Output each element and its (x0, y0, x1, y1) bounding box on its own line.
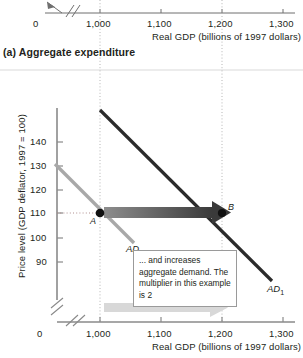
x-axis-break (66, 315, 85, 326)
y-tick-140: 140 (30, 136, 46, 147)
curve-label-ad1-subscript: 1 (280, 289, 284, 296)
annotation-callout: ... and increases aggregate demand. The … (133, 250, 237, 307)
figure-aggregate-expenditure: 0 1,000 1,100 1,200 1,300 Real GDP (bill… (0, 0, 303, 358)
curve-label-ad1: AD1 (267, 283, 284, 296)
top-axis-tick-1000: 1,000 (86, 18, 111, 29)
y-tick-110: 110 (30, 207, 46, 218)
x-tick-1000: 1,000 (86, 328, 111, 339)
top-axis-origin-label: 0 (33, 18, 38, 29)
x-tick-1100: 1,100 (147, 328, 172, 339)
point-a-marker (96, 209, 105, 218)
y-axis-title: Price level (GDP deflator, 1997 = 100) (16, 114, 27, 278)
panel-caption: (a) Aggregate expenditure (3, 46, 135, 58)
curve-ad0 (55, 164, 134, 243)
y-tick-120: 120 (30, 184, 46, 195)
y-tick-90: 90 (36, 256, 47, 267)
top-axis-title: Real GDP (billions of 1997 dollars) (152, 31, 301, 42)
x-tick-1300: 1,300 (269, 328, 294, 339)
curve-label-ad1-text: AD (267, 283, 280, 294)
top-axis-group (45, 2, 295, 17)
top-axis-tick-1300: 1,300 (269, 18, 294, 29)
y-axis-break (51, 298, 63, 315)
point-b-label: B (228, 202, 234, 212)
x-tick-1200: 1,200 (208, 328, 233, 339)
y-tick-130: 130 (30, 160, 46, 171)
top-axis-tick-1100: 1,100 (147, 18, 172, 29)
top-axis-tick-1200: 1,200 (208, 18, 233, 29)
x-axis-title: Real GDP (billions of 1997 dollars) (152, 341, 301, 352)
point-b-marker (218, 209, 226, 217)
point-a-label: A (90, 216, 96, 226)
x-axis-origin-label: 0 (37, 328, 42, 339)
y-tick-100: 100 (30, 232, 46, 243)
